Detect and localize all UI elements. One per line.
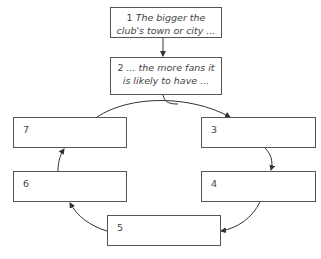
box-3: 3 xyxy=(201,117,316,148)
box-6-number: 6 xyxy=(23,178,29,189)
box-4: 4 xyxy=(201,171,316,202)
box-1-number: 1 xyxy=(127,12,133,23)
box-3-number: 3 xyxy=(211,124,217,135)
box-1: 1 The bigger the club's town or city ... xyxy=(110,7,222,38)
arrow-2-3 xyxy=(163,95,178,104)
box-5-number: 5 xyxy=(117,222,123,233)
box-4-number: 4 xyxy=(211,178,217,189)
arrow-7-3 xyxy=(97,101,230,118)
arrow-6-7 xyxy=(58,149,64,171)
arrow-5-6 xyxy=(70,203,107,231)
box-2-text: ... the more fans it is likely to have .… xyxy=(123,62,215,86)
box-6: 6 xyxy=(13,171,127,202)
box-7: 7 xyxy=(13,117,127,148)
box-5: 5 xyxy=(107,215,221,246)
arrow-3-4 xyxy=(265,148,272,170)
box-2: 2 ... the more fans it is likely to have… xyxy=(110,57,222,95)
arrow-4-5 xyxy=(221,202,260,231)
box-7-number: 7 xyxy=(23,124,29,135)
box-2-number: 2 xyxy=(117,62,123,73)
